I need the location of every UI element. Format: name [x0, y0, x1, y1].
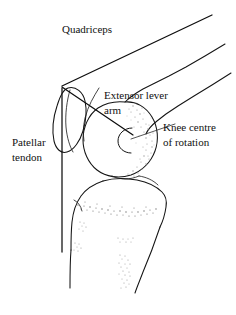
- tibia-medial-border: [71, 181, 103, 250]
- label-patellar-tendon-line1: Patellar: [12, 136, 46, 148]
- tibia-metaphysis-stipple: [74, 221, 134, 251]
- patella-outline: [53, 88, 86, 153]
- label-extensor-lever-arm-line2: arm: [104, 104, 122, 116]
- knee-diagram-root: Quadriceps Extensor lever arm Patellar t…: [0, 0, 236, 315]
- labels-group: Quadriceps Extensor lever arm Patellar t…: [12, 23, 216, 163]
- label-knee-centre-line1: Knee centre: [163, 121, 216, 133]
- knee-anatomy-figure: Quadriceps Extensor lever arm Patellar t…: [0, 0, 236, 315]
- tibial-plateau-outline: [103, 179, 166, 227]
- tibia-posterior-shaft: [135, 227, 160, 293]
- label-quadriceps: Quadriceps: [62, 23, 112, 35]
- tibia-group: [70, 176, 166, 293]
- knee-centre-rotation-arc: [118, 128, 132, 153]
- tibia-shaft-stipple: [118, 254, 130, 288]
- force-lines-group: [62, 15, 212, 252]
- patella-group: [53, 88, 86, 153]
- tibia-anterior-shaft: [70, 250, 71, 288]
- growth-plate-stipple: [74, 103, 157, 289]
- label-patellar-tendon-line2: tendon: [12, 151, 42, 163]
- label-extensor-lever-arm-line1: Extensor lever: [104, 89, 168, 101]
- patella-ridge: [66, 90, 73, 152]
- tibial-physis-stipple: [77, 202, 156, 217]
- label-knee-centre-line2: of rotation: [163, 136, 210, 148]
